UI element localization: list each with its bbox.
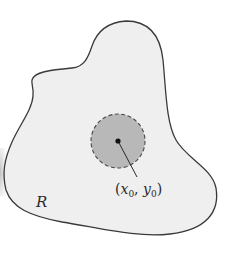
point-x0-y0 [115,138,120,143]
region-label: R [35,193,47,211]
diagram-canvas: (x0, y0) R [0,0,237,255]
